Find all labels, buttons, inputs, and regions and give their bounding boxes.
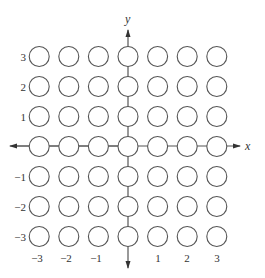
- lattice-point: [29, 47, 49, 67]
- x-tick-1: 1: [155, 252, 161, 264]
- lattice-point: [118, 197, 138, 217]
- lattice-point: [118, 167, 138, 187]
- x-tick-neg2: −2: [60, 252, 72, 264]
- lattice-point: [59, 227, 79, 247]
- y-tick-neg2: −2: [14, 201, 26, 213]
- y-tick-3: 3: [21, 51, 27, 63]
- lattice-point: [177, 47, 197, 67]
- lattice-point: [148, 197, 168, 217]
- lattice-point: [177, 227, 197, 247]
- y-tick-1: 1: [21, 111, 27, 123]
- lattice-point: [177, 197, 197, 217]
- lattice-point: [88, 107, 108, 127]
- lattice-point: [59, 77, 79, 97]
- lattice-point: [148, 47, 168, 67]
- lattice-point: [177, 107, 197, 127]
- lattice-point: [59, 47, 79, 67]
- x-tick-2: 2: [184, 252, 190, 264]
- lattice-point: [118, 77, 138, 97]
- lattice-points: [29, 47, 227, 247]
- lattice-point: [59, 197, 79, 217]
- x-tick-neg1: −1: [90, 252, 102, 264]
- lattice-point: [59, 137, 79, 157]
- lattice-point: [29, 137, 49, 157]
- lattice-point: [148, 137, 168, 157]
- lattice-point: [59, 167, 79, 187]
- lattice-point: [148, 107, 168, 127]
- lattice-point: [88, 227, 108, 247]
- lattice-point: [207, 107, 227, 127]
- lattice-point: [88, 47, 108, 67]
- lattice-point: [118, 227, 138, 247]
- lattice-point: [148, 77, 168, 97]
- lattice-point: [148, 227, 168, 247]
- y-tick-neg3: −3: [14, 231, 26, 243]
- lattice-point: [88, 137, 108, 157]
- lattice-point: [177, 167, 197, 187]
- lattice-point: [118, 47, 138, 67]
- lattice-point: [148, 167, 168, 187]
- y-tick-2: 2: [21, 81, 27, 93]
- lattice-point: [88, 167, 108, 187]
- lattice-point: [207, 77, 227, 97]
- lattice-point: [177, 77, 197, 97]
- lattice-point: [29, 227, 49, 247]
- lattice-diagram: x y 3 2 1 −1 −2 −3 −3 −2 −1 1 2 3: [0, 0, 265, 278]
- y-tick-neg1: −1: [14, 171, 26, 183]
- x-tick-neg3: −3: [31, 252, 43, 264]
- lattice-point: [118, 107, 138, 127]
- lattice-point: [29, 167, 49, 187]
- lattice-point: [207, 167, 227, 187]
- lattice-point: [207, 47, 227, 67]
- lattice-point: [207, 197, 227, 217]
- lattice-point: [118, 137, 138, 157]
- lattice-point: [207, 137, 227, 157]
- lattice-point: [29, 197, 49, 217]
- x-axis-label: x: [244, 139, 251, 153]
- lattice-point: [88, 197, 108, 217]
- lattice-point: [59, 107, 79, 127]
- lattice-point: [29, 77, 49, 97]
- lattice-point: [29, 107, 49, 127]
- lattice-point: [88, 77, 108, 97]
- y-axis-label: y: [124, 12, 131, 26]
- x-tick-3: 3: [214, 252, 220, 264]
- lattice-point: [207, 227, 227, 247]
- lattice-point: [177, 137, 197, 157]
